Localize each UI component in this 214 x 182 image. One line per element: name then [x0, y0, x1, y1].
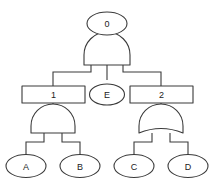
- wire-right-gate-leg-d: [170, 133, 188, 155]
- wire-top-gate-leg-right: [123, 65, 161, 86]
- node-basic-c[interactable]: C: [114, 155, 154, 178]
- wire-right-gate-leg-c: [134, 133, 152, 155]
- node2-label: 2: [159, 90, 164, 100]
- node-basic-e[interactable]: E: [90, 84, 125, 105]
- and-gate-top[interactable]: [84, 32, 130, 65]
- fault-tree-diagram: 0 1 E 2 A B C: [0, 0, 214, 182]
- wire-top-gate-leg-left: [53, 65, 91, 86]
- node-b-label: B: [77, 162, 83, 172]
- wire-left-gate-leg-b: [62, 133, 80, 155]
- top-event-label: 0: [104, 19, 109, 29]
- node-intermediate-right[interactable]: 2: [130, 86, 193, 103]
- node-basic-b[interactable]: B: [60, 155, 100, 178]
- wire-left-gate-leg-a: [26, 133, 44, 155]
- node1-label: 1: [51, 90, 56, 100]
- or-gate-right[interactable]: [139, 104, 183, 133]
- and-gate-left[interactable]: [31, 104, 75, 133]
- node-basic-d[interactable]: D: [168, 155, 208, 178]
- node-basic-a[interactable]: A: [6, 155, 46, 178]
- node-a-label: A: [23, 162, 29, 172]
- node-e-label: E: [104, 90, 110, 100]
- fault-tree-canvas: 0 1 E 2 A B C: [0, 0, 214, 182]
- node-d-label: D: [185, 162, 192, 172]
- gate-group: [31, 32, 183, 133]
- node-intermediate-left[interactable]: 1: [22, 86, 85, 103]
- node-top-event[interactable]: 0: [87, 12, 127, 35]
- node-c-label: C: [131, 162, 138, 172]
